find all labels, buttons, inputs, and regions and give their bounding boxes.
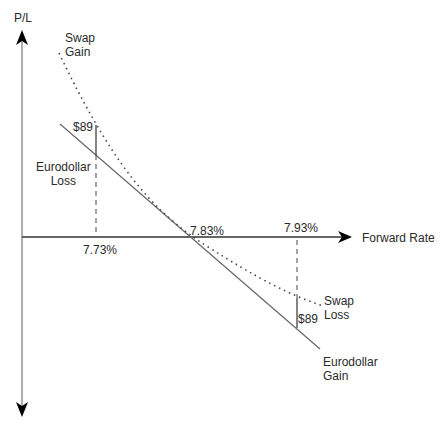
right-gap-amount: $89 <box>298 312 318 326</box>
rate-high-label: 7.93% <box>284 221 318 235</box>
left-gap-amount: $89 <box>73 120 93 134</box>
y-axis-label: P/L <box>14 11 32 25</box>
rate-mid-label: 7.83% <box>190 224 224 238</box>
rate-low-label: 7.73% <box>83 243 117 257</box>
swap-gain-label: Swap Gain <box>65 31 95 59</box>
eurodollar-gain-label: Eurodollar Gain <box>323 355 378 383</box>
swap-loss-label: Swap Loss <box>324 294 354 322</box>
swap-curve <box>59 53 323 306</box>
pl-diagram <box>0 0 445 429</box>
x-axis-label: Forward Rate <box>362 231 435 245</box>
eurodollar-loss-label: Eurodollar Loss <box>36 160 91 188</box>
